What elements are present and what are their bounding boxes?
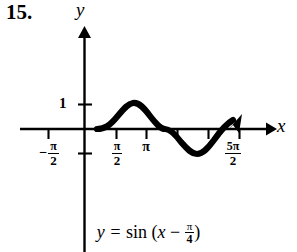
x-axis-ticks: [49, 129, 240, 139]
equation-caption: y = sin (x − π4): [0, 222, 297, 246]
equation-minus: −: [170, 222, 180, 242]
sine-graph-figure: 15. y x −π2 π2: [0, 0, 297, 252]
tick-label-one: 1: [59, 96, 67, 111]
tick-label-5pi-over-2: 5π2: [212, 140, 254, 167]
fraction-numerator: π: [48, 140, 59, 154]
equation-variable: x: [157, 222, 165, 242]
fraction-5pi-over-2: 5π2: [225, 140, 242, 167]
equation-equals: =: [109, 222, 121, 242]
equation-function: sin: [126, 222, 147, 242]
fraction-numerator: 5π: [225, 140, 242, 154]
y-axis-arrowhead: [78, 26, 91, 38]
fraction-denominator: 4: [185, 233, 195, 245]
fraction-pi-over-2: π2: [112, 140, 123, 167]
fraction-numerator: π: [112, 140, 123, 154]
equation-lhs: y: [97, 222, 105, 242]
tick-label-neg-pi-over-2: −π2: [31, 140, 67, 167]
tick-label-pi-over-2: π2: [104, 140, 130, 167]
fraction-denominator: 2: [48, 154, 59, 168]
x-axis-arrowhead: [266, 123, 277, 136]
minus-sign: −: [39, 146, 48, 160]
equation-close-paren: ): [194, 222, 200, 242]
fraction-pi-over-2: π2: [48, 140, 59, 167]
fraction-denominator: 2: [112, 154, 123, 168]
fraction-denominator: 2: [225, 154, 242, 168]
equation-fraction-pi-over-4: π4: [185, 221, 195, 245]
graph-canvas: [0, 0, 297, 252]
tick-label-pi: π: [134, 140, 158, 154]
